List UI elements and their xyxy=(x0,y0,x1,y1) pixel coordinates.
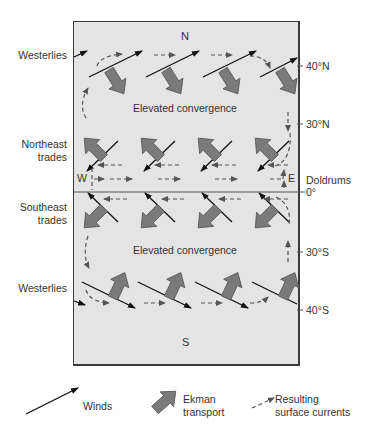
north-westerlies-row xyxy=(74,51,303,131)
legend-graphics xyxy=(26,384,274,418)
latitude-40s: 40°S xyxy=(306,304,329,316)
southeast-trades-row xyxy=(77,193,289,268)
northeast-trades-label-2: trades xyxy=(0,151,67,163)
elevated-convergence-north: Elevated convergence xyxy=(133,102,237,114)
west-label: W xyxy=(77,172,87,184)
northeast-trades-label-1: Northeast xyxy=(0,138,67,150)
east-label: E xyxy=(288,172,295,184)
legend-ekman-label-1: Ekman xyxy=(183,393,216,405)
elevated-convergence-south: Elevated convergence xyxy=(133,244,237,256)
latitude-ticks xyxy=(297,66,303,310)
doldrums-label: Doldrums xyxy=(306,174,351,186)
legend-currents-label-1: Resulting xyxy=(275,393,319,405)
southeast-trades-label-1: Southeast xyxy=(0,201,67,213)
south-label: S xyxy=(182,336,189,348)
latitude-30s: 30°S xyxy=(306,246,329,258)
legend-current-icon xyxy=(252,398,274,408)
westerlies-south-label: Westerlies xyxy=(0,282,67,294)
equator-label: 0° xyxy=(306,186,316,198)
north-label: N xyxy=(181,30,189,42)
legend-ekman-icon xyxy=(148,384,182,418)
legend-ekman-label-2: transport xyxy=(183,406,224,418)
legend-winds-label: Winds xyxy=(83,400,112,412)
westerlies-north-label: Westerlies xyxy=(0,49,67,61)
legend-currents-label-2: surface currents xyxy=(275,406,350,418)
latitude-40n: 40°N xyxy=(306,60,329,72)
southeast-trades-label-2: trades xyxy=(0,214,67,226)
south-westerlies-row xyxy=(74,268,304,308)
legend-wind-icon xyxy=(26,388,78,414)
latitude-30n: 30°N xyxy=(306,118,329,130)
northeast-trades-row xyxy=(77,131,290,190)
